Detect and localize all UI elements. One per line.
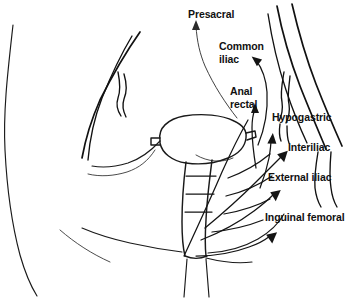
bladder — [151, 115, 256, 164]
left-vessel-pair — [82, 32, 140, 160]
label-interiliac: Interiliac — [288, 141, 330, 154]
label-inguinal-femoral: Inguinal femoral — [265, 211, 345, 224]
label-hypogastric: Hypogastric — [272, 111, 332, 124]
label-external-iliac: External iliac — [268, 171, 331, 184]
label-common-iliac-line2: iliac — [219, 53, 239, 65]
label-anal-rectal-line1: Anal — [230, 85, 252, 97]
label-anal-rectal-line2: rectal — [230, 98, 257, 110]
label-anal-rectal: Anal rectal — [230, 85, 257, 111]
label-presacral: Presacral — [188, 8, 234, 21]
label-common-iliac: Common iliac — [219, 40, 264, 66]
anatomy-diagram: Presacral Common iliac Anal rectal Hypog… — [0, 0, 353, 298]
label-common-iliac-line1: Common — [219, 40, 264, 52]
right-body-wall — [60, 141, 284, 263]
left-body-wall — [5, 25, 37, 296]
